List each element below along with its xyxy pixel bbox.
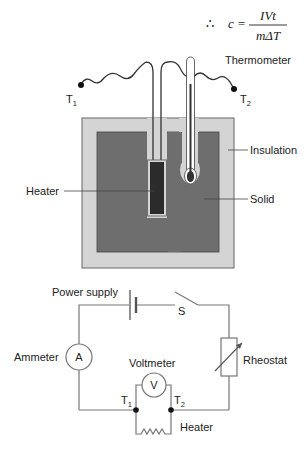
apparatus: T1 T2 Thermometer Insulation Solid Heate…	[26, 54, 297, 268]
ammeter-symbol-letter: A	[75, 351, 83, 363]
terminal-1-dot	[78, 82, 84, 88]
voltmeter-wire-left	[136, 385, 142, 410]
node-t2	[168, 407, 174, 413]
heater-element	[150, 162, 164, 214]
formula: ∴ c = IVt mΔT	[206, 8, 287, 43]
node-t1-label: T1	[121, 394, 132, 409]
formula-numerator: IVt	[259, 8, 276, 23]
heater-resistor	[136, 410, 171, 434]
lead-wire-right-a	[168, 62, 187, 76]
node-t2-label: T2	[174, 394, 185, 409]
node-t1	[133, 407, 139, 413]
circuit: Power supply S A Ammeter Rheostat V Volt…	[14, 286, 287, 434]
thermometer-bulb	[187, 171, 194, 182]
voltmeter-wire-right	[166, 385, 171, 410]
formula-lhs: c =	[228, 16, 246, 31]
lead-wire-right-b	[195, 73, 235, 88]
power-supply-label: Power supply	[52, 286, 119, 298]
terminal-1-label: T1	[66, 93, 77, 108]
switch-label: S	[178, 305, 185, 317]
heater-label: Heater	[26, 185, 59, 197]
specific-heat-capacity-diagram: ∴ c = IVt mΔT T1 T2	[0, 0, 308, 450]
rheostat-label: Rheostat	[243, 354, 287, 366]
voltmeter-symbol-letter: V	[150, 379, 158, 391]
switch-lever[interactable]	[175, 292, 198, 305]
lead-wire-left	[81, 62, 146, 84]
diagram-canvas: ∴ c = IVt mΔT T1 T2	[0, 0, 308, 450]
solid-divider	[168, 132, 181, 252]
voltmeter-label: Voltmeter	[129, 357, 176, 369]
wire-top-left	[79, 305, 129, 344]
solid-label: Solid	[250, 193, 274, 205]
heater-circuit-label: Heater	[180, 421, 213, 433]
wire-top-right	[198, 305, 229, 338]
thermometer-label: Thermometer	[225, 54, 291, 66]
formula-denominator: mΔT	[256, 28, 281, 43]
terminal-2-dot	[231, 86, 237, 92]
therefore-symbol: ∴	[206, 16, 214, 31]
terminal-2-label: T2	[240, 93, 251, 108]
ammeter-label: Ammeter	[14, 351, 59, 363]
insulation-label: Insulation	[250, 144, 297, 156]
